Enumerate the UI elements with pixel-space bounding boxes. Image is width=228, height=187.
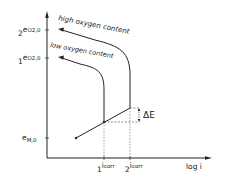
x-label-1-icorr: 1icorr xyxy=(97,161,115,174)
y-label-eM0: eM,0 xyxy=(22,133,37,143)
y-axis xyxy=(45,11,49,158)
x-axis xyxy=(47,156,212,160)
x-axis-label: log i xyxy=(186,162,202,171)
x-label-2-icorr: 2icorr xyxy=(125,161,143,174)
y-label-2-eO2: 2eO2,0 xyxy=(18,25,41,38)
label-high-oxygen: high oxygen content xyxy=(58,14,131,36)
curve-high-oxygen xyxy=(58,28,130,108)
polarization-diagram: 2eO2,0 1eO2,0 eM,0 1icorr 2icorr log i xyxy=(0,0,228,187)
delta-e-guides xyxy=(104,108,140,156)
metal-dissolution-line xyxy=(75,108,130,139)
curve-low-oxygen xyxy=(58,56,104,122)
delta-e-label: ΔE xyxy=(143,110,155,120)
y-label-1-eO2: 1eO2,0 xyxy=(18,53,41,66)
